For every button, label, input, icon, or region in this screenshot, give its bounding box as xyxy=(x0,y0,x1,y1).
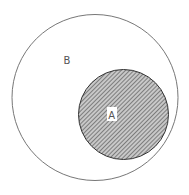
venn-diagram: B A xyxy=(0,0,189,195)
set-a-circle xyxy=(79,70,169,160)
set-a-label: A xyxy=(108,110,115,121)
set-b-label: B xyxy=(64,55,71,66)
